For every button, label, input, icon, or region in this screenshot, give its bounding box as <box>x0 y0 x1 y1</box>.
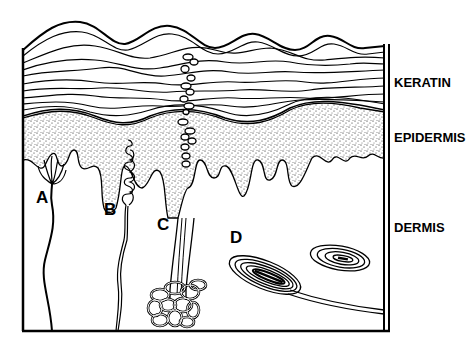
structure-a-nerve-ending <box>38 156 66 331</box>
label-c: C <box>157 215 169 234</box>
label-b: B <box>104 200 116 219</box>
label-a: A <box>36 188 48 207</box>
structure-d-pacinian-corpuscle <box>225 241 384 314</box>
label-epidermis: EPIDERMIS <box>394 130 466 145</box>
skin-cross-section-diagram: KERATIN EPIDERMIS DERMIS A B C D <box>0 0 473 345</box>
label-dermis: DERMIS <box>394 220 445 235</box>
structure-c-sweat-gland <box>148 218 206 327</box>
epidermis-layer <box>23 103 385 218</box>
label-keratin: KERATIN <box>394 75 451 90</box>
label-d: D <box>230 228 242 247</box>
